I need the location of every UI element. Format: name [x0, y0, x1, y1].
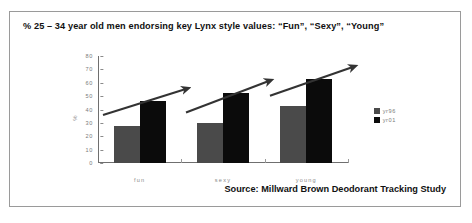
bar-young-yr01[interactable] [306, 79, 332, 163]
bar-group: fun [103, 56, 176, 163]
legend-swatch-yr01 [374, 117, 380, 123]
bar-fun-yr01[interactable] [140, 101, 166, 163]
x-tick-label: young [296, 177, 317, 183]
bar-young-yr96[interactable] [280, 106, 306, 164]
bar-chart: % 01020304050607080 funsexyyoung yr96yr0… [70, 50, 400, 185]
x-tick-label: sexy [215, 177, 231, 183]
bar-fun-yr96[interactable] [114, 126, 140, 163]
legend-label: yr01 [383, 117, 396, 123]
plot-area: funsexyyoung [98, 56, 348, 163]
legend-item-yr96[interactable]: yr96 [374, 108, 396, 114]
y-tick-label: 70 [85, 66, 98, 72]
y-tick-mark [100, 163, 103, 164]
source-note: Source: Millward Brown Deodorant Trackin… [224, 184, 446, 194]
slide-frame: % 25 – 34 year old men endorsing key Lyn… [9, 11, 461, 207]
y-tick-label: 10 [85, 147, 98, 153]
bar-sexy-yr01[interactable] [223, 93, 249, 163]
y-tick-label: 40 [85, 107, 98, 113]
y-tick-label: 80 [85, 53, 98, 59]
legend-item-yr01[interactable]: yr01 [374, 117, 396, 123]
chart-legend: yr96yr01 [374, 108, 396, 126]
y-axis-title: % [72, 115, 78, 120]
x-separator [181, 159, 182, 163]
x-separator [265, 159, 266, 163]
legend-swatch-yr96 [374, 108, 380, 114]
y-tick-label: 20 [85, 133, 98, 139]
bar-group: young [270, 56, 343, 163]
bar-groups: funsexyyoung [98, 56, 348, 163]
y-tick-label: 0 [89, 160, 98, 166]
bar-sexy-yr96[interactable] [197, 123, 223, 163]
y-tick-label: 50 [85, 93, 98, 99]
y-tick-label: 60 [85, 80, 98, 86]
bar-group: sexy [187, 56, 260, 163]
x-tick-label: fun [134, 177, 145, 183]
y-tick-label: 30 [85, 120, 98, 126]
legend-label: yr96 [383, 108, 396, 114]
x-separator [348, 159, 349, 163]
slide-title: % 25 – 34 year old men endorsing key Lyn… [23, 21, 453, 31]
